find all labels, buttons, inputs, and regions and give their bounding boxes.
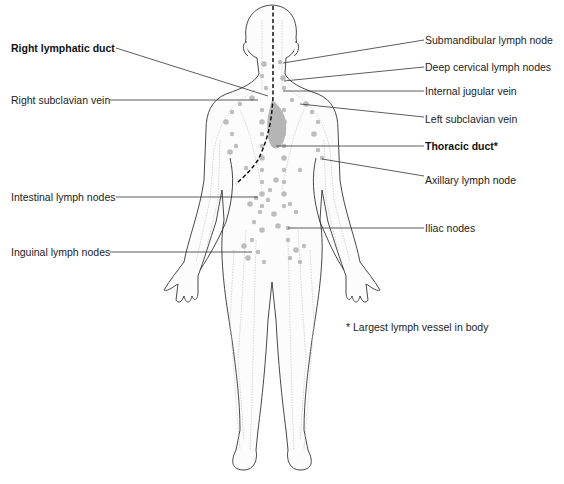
lymph-node [260,204,264,208]
lymph-node [254,196,258,200]
lymph-node [252,220,256,224]
lymph-node [256,250,260,254]
lymph-node [282,180,286,184]
lymph-node [280,75,286,81]
lymph-node [259,227,265,233]
label-deep-cervical-lymph-nodes: Deep cervical lymph nodes [425,61,551,73]
lymph-node [282,86,286,90]
lymph-node [258,210,262,214]
lymph-node [302,244,306,248]
lymph-node [260,74,264,78]
leader-submandibular [283,40,424,63]
lymph-node [250,238,254,242]
lymph-node [286,238,290,242]
lymph-node [298,260,302,264]
lymph-node [260,132,264,136]
lymph-node [311,131,317,137]
label-thoracic-duct: Thoracic duct* [425,140,498,152]
label-submandibular-lymph-node: Submandibular lymph node [425,34,553,46]
lymph-node [282,168,286,172]
lymph-node [230,110,234,114]
lymph-node [264,86,268,90]
lymph-node [278,60,282,64]
lymph-node [241,243,247,249]
lymph-node [245,255,251,261]
lymph-node [238,102,242,106]
lymph-node [247,201,253,207]
footnote: * Largest lymph vessel in body [346,321,488,333]
lymph-node [230,132,234,136]
label-iliac-nodes: Iliac nodes [425,222,475,234]
lymph-node [260,108,264,112]
lymph-node [261,61,267,67]
lymph-node [282,108,286,112]
leader-right-lymphatic-duct [116,48,268,96]
label-internal-jugular-vein: Internal jugular vein [425,85,517,97]
lymph-node [244,166,248,170]
lymph-node [281,191,287,197]
lymph-node [281,155,287,161]
lymph-node [227,149,233,155]
lymph-node [260,180,264,184]
lymph-node [303,101,309,107]
lymph-node [260,144,264,148]
label-axillary-lymph-node: Axillary lymph node [425,174,516,186]
label-intestinal-lymph-nodes: Intestinal lymph nodes [11,191,115,203]
lymph-node [266,198,270,202]
lymph-node [294,210,298,214]
leader-deep-cervical [284,67,424,81]
lymph-node [298,168,302,172]
lymph-node [268,188,272,192]
label-right-subclavian-vein: Right subclavian vein [11,94,110,106]
lymph-node [282,204,286,208]
lymph-node [273,177,279,183]
lymph-node [262,260,266,264]
lymph-node [316,148,320,152]
lymph-node [275,223,281,229]
lymph-node [316,120,320,124]
lymph-node [288,256,292,260]
label-inguinal-lymph-nodes: Inguinal lymph nodes [11,246,110,258]
lymph-node [288,202,292,206]
lymph-node [310,110,314,114]
label-right-lymphatic-duct: Right lymphatic duct [11,42,115,54]
lymph-node [259,191,265,197]
lymph-node [259,119,265,125]
lymph-node [234,144,238,148]
lymph-node [271,211,277,217]
lymph-node [290,98,294,102]
lymph-node [223,119,229,125]
lymph-node [260,168,264,172]
lymph-node [293,247,299,253]
label-left-subclavian-vein: Left subclavian vein [425,113,517,125]
